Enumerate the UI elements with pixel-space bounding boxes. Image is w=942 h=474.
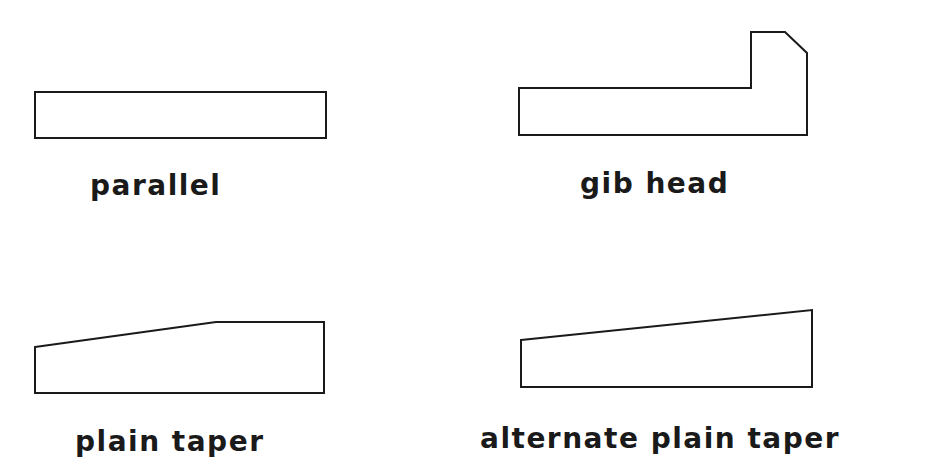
- plain-taper-key-shape: [35, 322, 324, 393]
- gib-head-label: gib head: [580, 170, 729, 198]
- alternate-plain-taper-label: alternate plain taper: [480, 425, 840, 453]
- gib-head-key-shape: [519, 32, 807, 135]
- parallel-key-shape: [35, 92, 326, 138]
- alternate-plain-taper-key-shape: [521, 310, 812, 387]
- plain-taper-label: plain taper: [75, 428, 264, 456]
- key-types-diagram: [0, 0, 942, 474]
- parallel-label: parallel: [90, 172, 221, 200]
